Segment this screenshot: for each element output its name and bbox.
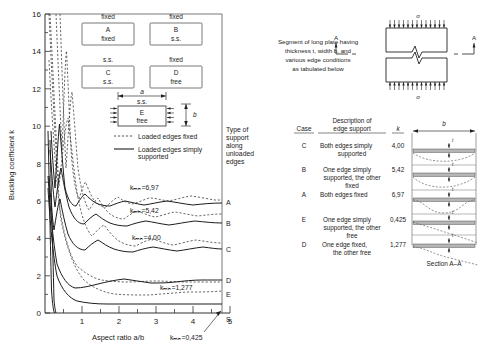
row-1-case: B bbox=[302, 166, 306, 173]
row-0-deflection-curve bbox=[413, 153, 475, 161]
kmin-annotation-S: kₘᵢₙ=0,425 bbox=[170, 334, 203, 341]
row-1-deflection-curve bbox=[413, 177, 475, 187]
row-0-case: C bbox=[302, 142, 307, 149]
row-4-k: 1,277 bbox=[390, 241, 406, 248]
case-box-E: a s.s. E free bbox=[110, 88, 197, 126]
row-0-plate-band bbox=[413, 149, 475, 152]
x-tick-3: 3 bbox=[154, 317, 159, 326]
plate-caption-line1: Segment of long plate having bbox=[278, 38, 359, 45]
row-2-t-label: t bbox=[452, 187, 454, 192]
row-3-case: E bbox=[302, 216, 306, 223]
row-4-desc-line2: the other free bbox=[333, 249, 371, 256]
plate-stress-bottom-label: σ bbox=[416, 93, 420, 100]
table-header-case: Case bbox=[297, 125, 312, 132]
y-tick-8: 8 bbox=[37, 160, 42, 169]
curve-label-A: A bbox=[226, 199, 231, 206]
row-3-deflection-curve bbox=[413, 222, 478, 243]
row-3-desc-line1: One edge simply bbox=[323, 216, 372, 224]
legend-group-line1: Type of bbox=[226, 126, 248, 134]
row-2-deflection-curve bbox=[413, 200, 475, 213]
y-tick-16: 16 bbox=[32, 10, 41, 19]
plate-stress-top-label: σ bbox=[416, 12, 420, 19]
case-box-A: fixed A fixed bbox=[82, 13, 134, 45]
curve-label-B: B bbox=[226, 220, 231, 227]
x-axis-label: Aspect ratio a/b bbox=[92, 333, 144, 342]
plate-caption-line4: as tabulated below bbox=[292, 65, 344, 72]
kmin-annotation-C: kₘᵢₙ=4,00 bbox=[132, 234, 161, 241]
y-tick-2: 2 bbox=[37, 272, 42, 281]
y-tick-4: 4 bbox=[37, 234, 42, 243]
case-E-dim-a: a bbox=[140, 88, 144, 95]
x-axis-ticks: 1 2 3 4 5 bbox=[64, 306, 233, 326]
case-A-bottom-edge: fixed bbox=[101, 35, 115, 42]
case-C-top-edge: s.s. bbox=[103, 56, 113, 63]
table-header-b: b bbox=[442, 120, 446, 127]
curve-end-labels: A B C D E S bbox=[226, 199, 231, 323]
table-b-dimension: b bbox=[413, 120, 475, 133]
row-3-thickness-marker: t bbox=[448, 210, 454, 230]
case-C-bottom-edge: s.s. bbox=[103, 78, 113, 85]
legend-group-line2: support bbox=[226, 134, 249, 142]
plate-caption-line2: thickness t, width b, and bbox=[285, 47, 352, 54]
kmin-annotation-A: kₘᵢₙ=6,97 bbox=[130, 184, 159, 191]
legend-label-dashed: Loaded edges fixed bbox=[138, 133, 198, 141]
table-header-k: k bbox=[396, 125, 400, 132]
row-0-k: 4,00 bbox=[392, 142, 405, 149]
plate-lower-body bbox=[386, 52, 447, 82]
x-tick-4: 4 bbox=[191, 317, 196, 326]
row-0-desc-line1: Both edges simply bbox=[320, 142, 373, 150]
y-tick-6: 6 bbox=[37, 197, 42, 206]
case-A-letter: A bbox=[106, 26, 111, 33]
table-row: A Both edges fixed 6,97 t bbox=[302, 187, 476, 214]
plate-diagram-panel: Segment of long plate having thickness t… bbox=[278, 12, 477, 100]
row-1-plate-band bbox=[413, 173, 475, 176]
kmin-annotation-B: kₘᵢₙ=5,42 bbox=[130, 207, 159, 214]
case-E-top-edge: s.s. bbox=[137, 98, 147, 105]
table-row: E One edge simply supported, the other f… bbox=[302, 210, 478, 243]
case-box-D: fixed D free bbox=[150, 56, 202, 88]
row-1-k: 5,42 bbox=[392, 166, 405, 173]
row-0-t-label: t bbox=[452, 138, 454, 143]
case-E-load-arrows-right bbox=[167, 107, 174, 123]
legend-group-line5: edges bbox=[226, 158, 245, 166]
case-box-B: fixed B s.s. bbox=[150, 13, 202, 45]
chart-axes bbox=[45, 14, 230, 313]
y-tick-10: 10 bbox=[32, 122, 41, 131]
table-section-caption: Section A–A bbox=[427, 260, 463, 267]
row-4-desc-line1: One edge fixed, bbox=[322, 241, 367, 249]
y-tick-0: 0 bbox=[37, 309, 42, 318]
figure-svg: 16 14 12 10 8 6 4 2 0 Buckling coefficie… bbox=[0, 0, 483, 348]
row-1-desc-line3: fixed bbox=[345, 182, 359, 189]
case-C-letter: C bbox=[106, 69, 111, 76]
table-header-desc-line2: edge support bbox=[333, 125, 371, 133]
case-D-bottom-edge: free bbox=[170, 78, 182, 85]
curve-D-solid bbox=[48, 176, 222, 288]
plate-caption-line3: various edge conditions bbox=[285, 56, 350, 63]
legend-group-line3: along bbox=[226, 142, 243, 150]
row-2-desc-line1: Both edges fixed bbox=[320, 191, 368, 199]
section-marker-right: A bbox=[454, 34, 477, 54]
table-row: C Both edges simply supported 4,00 t bbox=[302, 138, 476, 165]
case-E-dim-b: b bbox=[193, 111, 197, 118]
plate-bottom-load-arrows bbox=[389, 82, 445, 90]
case-B-bottom-edge: s.s. bbox=[171, 35, 181, 42]
edge-support-table: Case Description of edge support k b C B… bbox=[294, 117, 478, 267]
case-E-letter: E bbox=[140, 109, 145, 116]
row-3-plate-band bbox=[413, 221, 475, 224]
row-4-thickness-marker: t bbox=[448, 233, 454, 253]
case-D-top-edge: fixed bbox=[169, 56, 183, 63]
table-row: B One edge simply supported, the other f… bbox=[302, 162, 476, 190]
row-2-plate-band bbox=[413, 198, 475, 201]
legend-label-solid-line2: supported bbox=[138, 153, 168, 161]
case-box-C: s.s. C s.s. bbox=[82, 56, 134, 88]
y-axis-label: Buckling coefficient k bbox=[7, 130, 16, 200]
row-4-plate-band bbox=[413, 244, 475, 247]
row-2-k: 6,97 bbox=[392, 191, 405, 198]
case-E-load-arrows-left bbox=[110, 107, 117, 123]
kmin-annotation-D: kₘᵢₙ=1,277 bbox=[160, 284, 193, 291]
chart-panel: 16 14 12 10 8 6 4 2 0 Buckling coefficie… bbox=[7, 10, 254, 342]
y-tick-14: 14 bbox=[32, 47, 41, 56]
row-0-desc-line2: supported bbox=[338, 150, 367, 158]
case-A-top-edge: fixed bbox=[101, 13, 115, 20]
row-1-t-label: t bbox=[452, 162, 454, 167]
